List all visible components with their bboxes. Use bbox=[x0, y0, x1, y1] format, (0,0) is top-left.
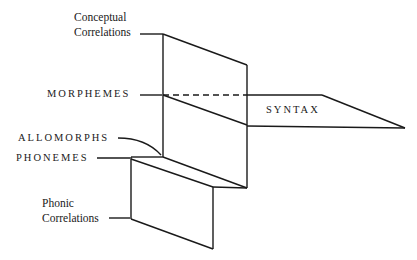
conceptual-line2: Correlations bbox=[74, 27, 131, 39]
linguistic-levels-diagram: Conceptual Correlations MORPHEMES SYNTAX… bbox=[0, 0, 417, 260]
allomorphs-label: ALLOMORPHS bbox=[18, 133, 109, 144]
upper-panel bbox=[163, 34, 247, 188]
phonic-correlations-label: Phonic Correlations bbox=[42, 198, 99, 224]
phonemes-label: PHONEMES bbox=[16, 153, 89, 164]
leader-lines bbox=[97, 34, 163, 218]
phonemes-plane bbox=[131, 157, 247, 188]
morphemes-label: MORPHEMES bbox=[47, 89, 130, 100]
morphemes-plane bbox=[163, 95, 247, 125]
phonic-line2: Correlations bbox=[42, 213, 99, 225]
syntax-label: SYNTAX bbox=[266, 105, 320, 116]
conceptual-line1: Conceptual bbox=[74, 12, 131, 24]
phonic-line1: Phonic bbox=[42, 198, 99, 210]
conceptual-correlations-label: Conceptual Correlations bbox=[74, 12, 131, 38]
